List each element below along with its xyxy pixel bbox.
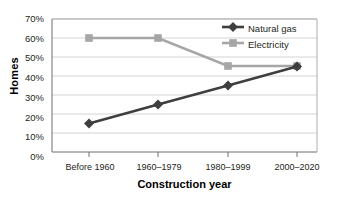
legend-marker-electricity-square-icon [229, 39, 237, 47]
series-electricity [85, 34, 301, 70]
legend-swatch-electricity [222, 39, 244, 47]
natural-gas-marker-2 [223, 81, 233, 91]
natural-gas-marker-1 [153, 100, 163, 110]
electricity-line [89, 38, 297, 66]
line-chart: Homes 70% 60% 50% 40% 30% 20% 10% 0% Bef… [0, 0, 339, 198]
legend-marker-natural-gas-diamond-icon [228, 22, 238, 32]
electricity-marker-0 [85, 34, 93, 42]
x-axis-ticks [89, 152, 297, 157]
legend-swatch-natural-gas [222, 22, 244, 32]
electricity-marker-2 [224, 62, 232, 70]
natural-gas-marker-0 [84, 119, 94, 129]
plot-canvas [0, 0, 339, 198]
electricity-marker-1 [154, 34, 162, 42]
